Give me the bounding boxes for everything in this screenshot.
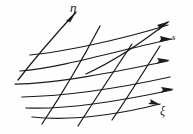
coordinate-net-figure: η s ξ bbox=[0, 0, 193, 134]
xi-curve-7 bbox=[32, 104, 160, 118]
xi-curve-4 bbox=[15, 61, 168, 84]
axis-label-s: s bbox=[172, 33, 176, 42]
axis-label-xi: ξ bbox=[160, 105, 165, 117]
arrowhead-s-icon bbox=[159, 36, 172, 42]
axis-label-eta: η bbox=[70, 1, 76, 14]
eta-curve-1 bbox=[18, 12, 76, 80]
eta-curve-3 bbox=[78, 44, 132, 126]
xi-curve-5 bbox=[22, 77, 170, 97]
